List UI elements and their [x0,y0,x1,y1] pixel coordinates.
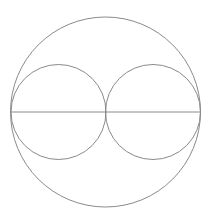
diagram-canvas [0,0,209,219]
